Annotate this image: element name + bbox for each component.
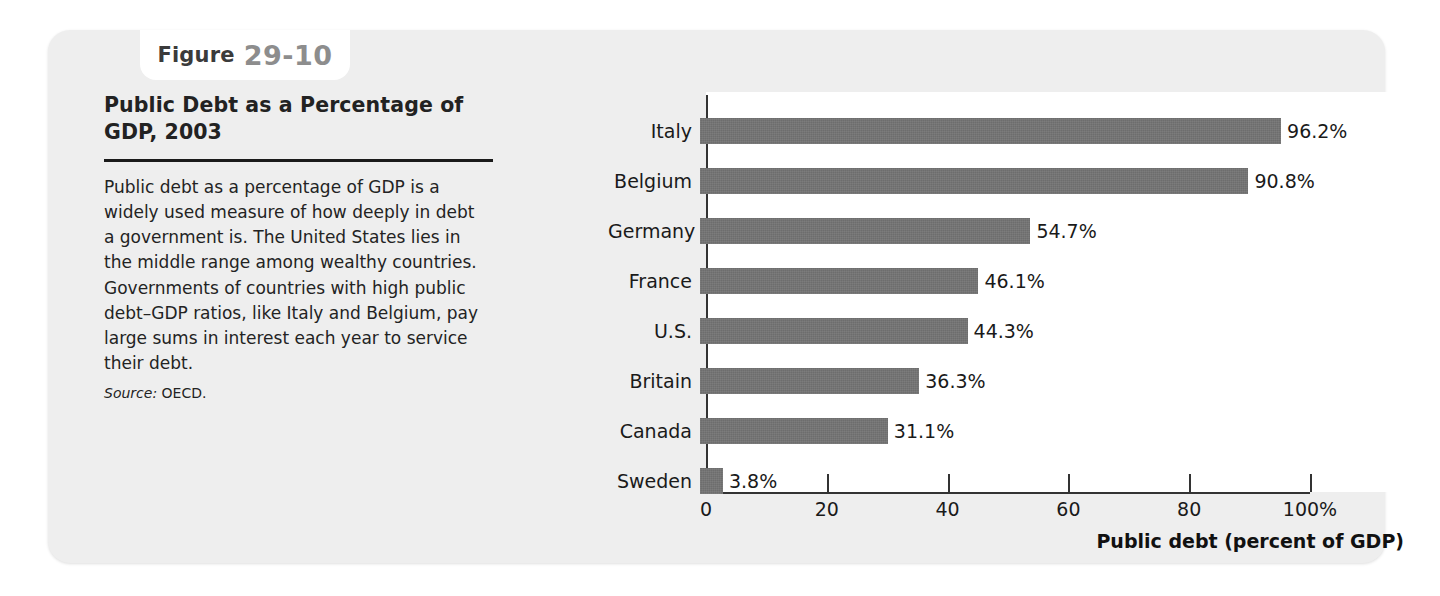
figure-title: Public Debt as a Percentage of GDP, 2003 (104, 92, 496, 145)
x-axis-tick-label: 60 (1056, 498, 1080, 520)
title-divider (104, 159, 493, 162)
x-axis-tick (1068, 474, 1070, 492)
x-axis-tick-label: 0 (700, 498, 712, 520)
bar (700, 368, 919, 394)
bar-value-label: 44.3% (974, 320, 1034, 342)
bar-row: Canada31.1% (608, 406, 1408, 456)
bar-value-label: 54.7% (1036, 220, 1096, 242)
figure-number: 29-10 (244, 40, 333, 71)
bar-track: 44.3% (700, 306, 1408, 356)
x-axis-tick-label: 100% (1283, 498, 1337, 520)
bar (700, 218, 1030, 244)
bar (700, 418, 888, 444)
figure-body-text: Public debt as a percentage of GDP is a … (104, 175, 482, 376)
x-axis-title: Public debt (percent of GDP) (706, 530, 1408, 552)
figure-text-column: Public Debt as a Percentage of GDP, 2003… (104, 92, 496, 401)
bar-value-label: 36.3% (925, 370, 985, 392)
bar-category-label: Sweden (608, 470, 700, 492)
bar (700, 268, 978, 294)
bar-row: Britain36.3% (608, 356, 1408, 406)
source-value: OECD. (162, 385, 207, 401)
bar-category-label: Canada (608, 420, 700, 442)
bar-track: 46.1% (700, 256, 1408, 306)
figure-number-tab: Figure 29-10 (140, 30, 350, 80)
bar (700, 118, 1281, 144)
bar-category-label: Britain (608, 370, 700, 392)
x-axis-tick (827, 474, 829, 492)
bar (700, 168, 1248, 194)
bar-row: U.S.44.3% (608, 306, 1408, 356)
bar-value-label: 31.1% (894, 420, 954, 442)
bar-track: 31.1% (700, 406, 1408, 456)
x-axis-ticks (706, 474, 1408, 494)
x-axis-tick-label: 80 (1177, 498, 1201, 520)
x-axis-tick (1189, 474, 1191, 492)
bar-track: 96.2% (700, 106, 1408, 156)
bar-track: 90.8% (700, 156, 1408, 206)
bar-category-label: Italy (608, 120, 700, 142)
figure-panel: Figure 29-10 Public Debt as a Percentage… (48, 30, 1385, 563)
bar-row: Italy96.2% (608, 106, 1408, 156)
x-axis-tick-labels: 020406080100% (706, 498, 1408, 526)
figure-source: Source: OECD. (104, 385, 496, 401)
bar-row: Belgium90.8% (608, 156, 1408, 206)
bar-value-label: 96.2% (1287, 120, 1347, 142)
bar-category-label: U.S. (608, 320, 700, 342)
bar-row: France46.1% (608, 256, 1408, 306)
bar-value-label: 90.8% (1254, 170, 1314, 192)
figure-screenshot: Figure 29-10 Public Debt as a Percentage… (0, 0, 1440, 596)
bar-row: Germany54.7% (608, 206, 1408, 256)
source-label: Source: (104, 385, 157, 401)
bar-chart: Italy96.2%Belgium90.8%Germany54.7%France… (608, 92, 1408, 552)
bar-category-label: Belgium (608, 170, 700, 192)
x-axis-tick-label: 40 (936, 498, 960, 520)
bar-series: Italy96.2%Belgium90.8%Germany54.7%France… (608, 92, 1408, 492)
bar-track: 54.7% (700, 206, 1408, 256)
bar (700, 318, 968, 344)
bar-category-label: Germany (608, 220, 700, 242)
figure-label: Figure (157, 43, 234, 67)
bar-value-label: 46.1% (984, 270, 1044, 292)
x-axis-tick (1310, 474, 1312, 492)
bar-category-label: France (608, 270, 700, 292)
x-axis-tick-label: 20 (815, 498, 839, 520)
bar-track: 36.3% (700, 356, 1408, 406)
x-axis-tick (948, 474, 950, 492)
